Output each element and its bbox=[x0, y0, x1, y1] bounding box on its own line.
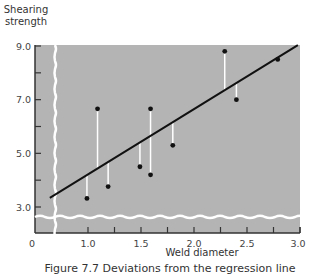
data-point bbox=[234, 97, 239, 102]
figure-caption: Figure 7.7 Deviations from the regressio… bbox=[40, 262, 300, 275]
y-tick-label: 9.0 bbox=[16, 41, 31, 52]
x-tick-label: 1.0 bbox=[80, 238, 95, 249]
x-tick-label: 3.0 bbox=[290, 238, 305, 249]
y-tick-label: 3.0 bbox=[16, 202, 31, 213]
data-point bbox=[222, 49, 227, 54]
plot-area bbox=[35, 45, 300, 233]
data-point bbox=[106, 184, 111, 189]
y-tick-label: 7.0 bbox=[16, 94, 31, 105]
x-tick-label: 0 bbox=[29, 238, 35, 249]
x-tick-label: 1.5 bbox=[133, 238, 148, 249]
data-point bbox=[275, 57, 280, 62]
data-point bbox=[170, 143, 175, 148]
data-point bbox=[95, 106, 100, 111]
data-point bbox=[148, 106, 153, 111]
data-point bbox=[85, 196, 90, 201]
data-point bbox=[148, 172, 153, 177]
data-point bbox=[138, 164, 143, 169]
y-tick-label: 5.0 bbox=[16, 148, 31, 159]
x-tick-label: 2.5 bbox=[239, 238, 254, 249]
x-axis-label: Weld diameter bbox=[165, 247, 239, 258]
